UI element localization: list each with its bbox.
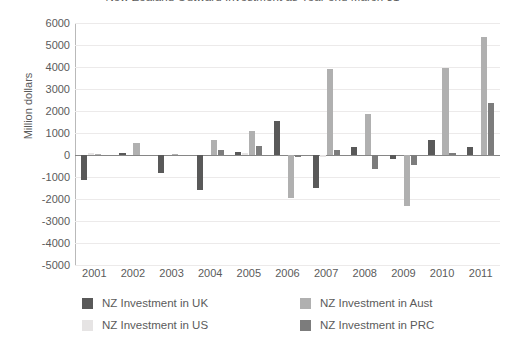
bar xyxy=(467,147,473,155)
gridline xyxy=(75,265,500,266)
bar xyxy=(295,155,301,157)
legend-color-swatch xyxy=(300,298,311,309)
y-axis-tick-label: -4000 xyxy=(20,238,70,249)
bar xyxy=(95,154,101,155)
bar xyxy=(313,155,319,188)
x-axis-tick-label: 2007 xyxy=(307,267,346,279)
bar-group xyxy=(384,23,423,265)
bar-group xyxy=(152,23,191,265)
bar xyxy=(372,155,378,169)
x-axis-tick-label: 2003 xyxy=(152,267,191,279)
bar xyxy=(320,155,326,157)
x-axis-tick-labels: 2001200220032004200520062007200820092010… xyxy=(75,267,500,283)
bar xyxy=(133,143,139,155)
legend-item[interactable]: NZ Investment in Aust xyxy=(300,297,433,309)
bar xyxy=(242,153,248,155)
bar-group xyxy=(75,23,114,265)
legend-color-swatch xyxy=(82,320,93,331)
y-axis-tick-label: 3000 xyxy=(20,84,70,95)
y-axis-tick-labels: 6000500040003000200010000-1000-2000-3000… xyxy=(18,23,70,265)
bar xyxy=(365,114,371,155)
y-axis-tick-label: 4000 xyxy=(20,62,70,73)
bar xyxy=(119,153,125,155)
bar xyxy=(411,155,417,165)
y-axis-tick-label: -1000 xyxy=(20,172,70,183)
bar xyxy=(197,155,203,190)
x-axis-tick-label: 2002 xyxy=(114,267,153,279)
x-axis-tick-label: 2010 xyxy=(423,267,462,279)
y-axis-tick-label: 6000 xyxy=(20,18,70,29)
bar xyxy=(404,155,410,206)
bar-group xyxy=(423,23,462,265)
legend-label: NZ Investment in PRC xyxy=(320,319,434,331)
bar xyxy=(274,121,280,155)
legend-item[interactable]: NZ Investment in UK xyxy=(82,297,208,309)
bar xyxy=(288,155,294,198)
y-axis-tick-label: 1000 xyxy=(20,128,70,139)
bar-group xyxy=(461,23,500,265)
bar xyxy=(488,103,494,155)
legend-label: NZ Investment in US xyxy=(102,319,208,331)
bar xyxy=(88,153,94,155)
bar xyxy=(249,131,255,155)
y-axis-tick-mark xyxy=(75,155,79,156)
x-axis-tick-label: 2005 xyxy=(230,267,269,279)
bar xyxy=(428,140,434,155)
bar xyxy=(351,147,357,155)
bar-group xyxy=(268,23,307,265)
y-axis-tick-label: 5000 xyxy=(20,40,70,51)
bar-group xyxy=(230,23,269,265)
x-axis-tick-label: 2009 xyxy=(384,267,423,279)
legend-item[interactable]: NZ Investment in PRC xyxy=(300,319,434,331)
bar xyxy=(481,37,487,155)
x-axis-tick-label: 2008 xyxy=(345,267,384,279)
y-axis-tick-label: 0 xyxy=(20,150,70,161)
bar xyxy=(449,153,455,155)
chart-title: New Zealand Outward Investment as Year e… xyxy=(0,0,505,3)
bar xyxy=(172,154,178,155)
bar-group xyxy=(114,23,153,265)
chart-legend: NZ Investment in UKNZ Investment in Aust… xyxy=(82,297,482,343)
bar xyxy=(211,140,217,155)
bar xyxy=(390,155,396,159)
y-axis-tick-label: -3000 xyxy=(20,216,70,227)
y-axis-tick-label: 2000 xyxy=(20,106,70,117)
y-axis-tick-label: -5000 xyxy=(20,260,70,271)
bar-chart: New Zealand Outward Investment as Year e… xyxy=(0,0,505,360)
bar xyxy=(442,68,448,155)
bar xyxy=(327,69,333,155)
bar xyxy=(256,146,262,155)
legend-item[interactable]: NZ Investment in US xyxy=(82,319,208,331)
bar-group xyxy=(345,23,384,265)
legend-color-swatch xyxy=(300,320,311,331)
bar-group xyxy=(191,23,230,265)
x-axis-tick-label: 2001 xyxy=(75,267,114,279)
x-axis-tick-label: 2006 xyxy=(268,267,307,279)
bar xyxy=(334,150,340,156)
bar xyxy=(235,152,241,155)
bar xyxy=(218,150,224,156)
legend-color-swatch xyxy=(82,298,93,309)
plot-area xyxy=(75,23,500,265)
legend-label: NZ Investment in UK xyxy=(102,297,208,309)
y-axis-tick-label: -2000 xyxy=(20,194,70,205)
bar-group xyxy=(307,23,346,265)
x-axis-tick-label: 2011 xyxy=(461,267,500,279)
bar xyxy=(158,155,164,173)
legend-label: NZ Investment in Aust xyxy=(320,297,433,309)
bar xyxy=(81,155,87,180)
x-axis-tick-label: 2004 xyxy=(191,267,230,279)
